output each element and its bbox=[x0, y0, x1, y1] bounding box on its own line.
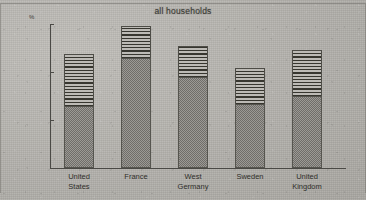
x-axis-line bbox=[50, 168, 346, 169]
bar-sweden[interactable] bbox=[235, 68, 265, 168]
bar-west-germany[interactable] bbox=[178, 46, 208, 168]
y-axis-unit-label: % bbox=[29, 14, 34, 20]
y-tick-20: 20 bbox=[0, 120, 50, 121]
bar-segment-upper bbox=[178, 46, 208, 77]
bar-chart: all households % 60 40 20 0 United bbox=[0, 0, 366, 200]
bar-segment-upper bbox=[235, 68, 265, 104]
x-label-united-kingdom: United Kingdom bbox=[264, 172, 350, 192]
bar-segment-lower bbox=[178, 77, 208, 168]
bar-segment-lower bbox=[121, 58, 151, 168]
y-tick-0: 0 bbox=[0, 168, 50, 169]
bar-france[interactable] bbox=[121, 26, 151, 168]
x-label-line2: Kingdom bbox=[264, 182, 350, 192]
x-label-line1: United bbox=[264, 172, 350, 182]
x-label-line2: States bbox=[36, 182, 122, 192]
y-tick-40: 40 bbox=[0, 72, 50, 73]
chart-title: all households bbox=[0, 6, 366, 16]
bar-segment-upper bbox=[64, 54, 94, 106]
bar-segment-lower bbox=[235, 104, 265, 168]
bar-segment-upper bbox=[121, 26, 151, 57]
bar-united-states[interactable] bbox=[64, 54, 94, 168]
y-axis-line bbox=[50, 24, 51, 168]
x-label-line2: Germany bbox=[150, 182, 236, 192]
bar-segment-lower bbox=[64, 106, 94, 168]
bar-segment-upper bbox=[292, 50, 322, 96]
y-tick-60: 60 bbox=[0, 24, 50, 25]
bar-segment-lower bbox=[292, 96, 322, 168]
bar-united-kingdom[interactable] bbox=[292, 50, 322, 168]
